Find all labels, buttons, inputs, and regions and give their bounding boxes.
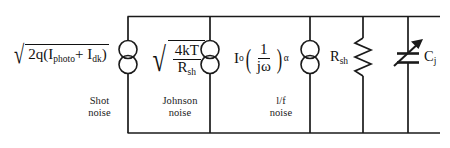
circuit-diagram <box>0 0 450 148</box>
shot-formula-close: ) <box>102 46 107 62</box>
flicker-noise-caption: l/f noise <box>254 95 308 118</box>
flicker-coefficient-sub: o <box>239 53 244 63</box>
shunt-resistance-subscript: sh <box>340 56 348 66</box>
shot-noise-caption-line1: Shot <box>72 95 127 107</box>
flicker-numerator: 1 <box>258 42 270 59</box>
shot-formula-lead: 2q(I <box>28 46 53 62</box>
shunt-resistance-label: Rsh <box>330 48 348 66</box>
shot-noise-caption: Shot noise <box>72 95 127 118</box>
shunt-resistance-symbol: R <box>330 48 340 64</box>
johnson-fraction: 4kT Rsh <box>171 43 203 77</box>
junction-capacitance-subscript: j <box>434 56 437 66</box>
flicker-fraction: 1 jω <box>253 42 275 75</box>
johnson-noise-caption: Johnson noise <box>152 95 208 118</box>
johnson-denominator: Rsh <box>176 60 198 77</box>
johnson-noise-caption-line2: noise <box>152 107 208 119</box>
johnson-noise-formula: √ 4kT Rsh <box>150 40 205 77</box>
flicker-denominator: jω <box>255 59 273 75</box>
flicker-noise-caption-line1: l/f <box>254 95 308 107</box>
shot-formula-sub-photo: photo <box>53 54 75 64</box>
junction-capacitance-label: Cj <box>424 48 436 66</box>
resistor-symbol <box>355 38 371 76</box>
shot-formula-plus: + I <box>75 46 92 62</box>
flicker-exponent: α <box>284 53 289 63</box>
shot-noise-formula: √ 2q(Iphoto+ Idk) <box>12 44 109 64</box>
junction-capacitance-symbol: C <box>424 48 434 64</box>
shot-formula-sub-dk: dk <box>92 54 102 64</box>
johnson-numerator: 4kT <box>173 43 201 60</box>
shot-noise-caption-line2: noise <box>72 107 127 119</box>
johnson-noise-caption-line1: Johnson <box>152 95 208 107</box>
flicker-noise-caption-line2: noise <box>254 107 308 119</box>
flicker-noise-formula: Io ( 1 jω )α <box>234 42 289 75</box>
